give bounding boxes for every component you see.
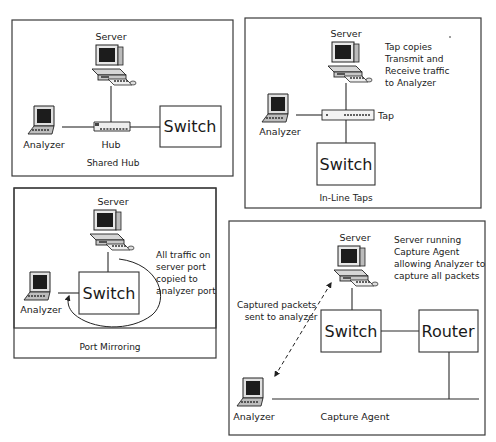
analyzer-label: Analyzer <box>20 304 61 315</box>
tap-label: Tap <box>377 110 394 121</box>
hub-label: Hub <box>101 139 120 150</box>
panel-shared-hub: Server Switch Analyzer Hub Shared Hub <box>12 20 233 176</box>
panel-capture-agent: Server Server running Capture Agent allo… <box>229 221 488 435</box>
switch-label: Switch <box>164 117 217 136</box>
network-capture-diagram: Server Switch Analyzer Hub Shared Hub Se… <box>0 0 496 442</box>
server-label: Server <box>339 232 370 243</box>
switch-label: Switch <box>325 322 378 341</box>
panel-title: Capture Agent <box>321 411 390 422</box>
hub-icon <box>94 122 130 131</box>
analyzer-label: Analyzer <box>23 139 64 150</box>
server-label: Server <box>330 28 361 39</box>
switch-label: Switch <box>83 284 136 303</box>
switch-label: Switch <box>320 155 373 174</box>
tap-icon <box>322 110 374 120</box>
analyzer-label: Analyzer <box>233 411 274 422</box>
server-label: Server <box>95 31 126 42</box>
panel-port-mirroring: Server Switch All traffic on server port… <box>14 188 216 352</box>
router-label: Router <box>421 322 474 341</box>
panel-title: In-Line Taps <box>319 193 372 203</box>
panel-title: Port Mirroring <box>79 342 140 352</box>
analyzer-label: Analyzer <box>259 126 300 137</box>
server-label: Server <box>97 196 128 207</box>
panel-inline-taps: Server Tap copies Transmit and Receive t… <box>245 18 481 208</box>
panel-title: Shared Hub <box>87 158 140 168</box>
